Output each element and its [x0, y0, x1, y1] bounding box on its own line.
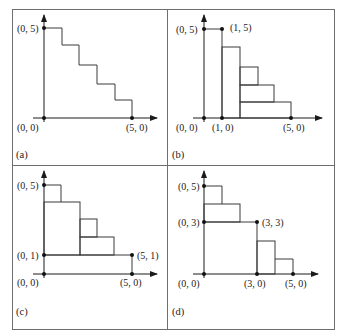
label-0-5: (0, 5)	[176, 24, 198, 36]
point-5-0	[130, 272, 134, 276]
rect-step-2	[240, 67, 258, 85]
rect-top	[44, 185, 61, 202]
label-0-3: (0, 3)	[178, 217, 200, 229]
panel-label-d: (d)	[172, 306, 185, 318]
label-1-5: (1, 5)	[230, 22, 252, 34]
panel-label-b: (b)	[172, 149, 185, 161]
rect-step-3	[240, 85, 274, 102]
label-0-0: (0, 0)	[178, 278, 200, 290]
panel-label-a: (a)	[16, 149, 28, 161]
point-0-0	[42, 272, 46, 276]
rect-top	[204, 186, 222, 204]
point-1-5	[220, 27, 224, 31]
point-0-0	[202, 272, 206, 276]
staircase-figure: (0, 5) (0, 0) (5, 0) (a) (0, 5) (1, 5) (…	[0, 0, 337, 333]
point-1-0	[220, 116, 224, 120]
rect-step-3	[80, 237, 114, 255]
label-5-0: (5, 0)	[285, 278, 307, 290]
rect-lower-1	[257, 241, 275, 274]
strip-rect	[204, 29, 222, 118]
point-0-5	[42, 26, 46, 30]
panel-label-c: (c)	[16, 306, 28, 318]
label-5-0: (5, 0)	[126, 122, 148, 134]
point-0-0	[202, 116, 206, 120]
point-0-5	[202, 27, 206, 31]
label-3-0: (3, 0)	[244, 278, 266, 290]
rect-step-4	[240, 102, 291, 118]
label-0-0: (0, 0)	[17, 277, 39, 289]
point-0-5	[202, 184, 206, 188]
panel-b: (0, 5) (1, 5) (0, 0) (1, 0) (5, 0) (b)	[172, 15, 322, 161]
point-0-1	[42, 253, 46, 257]
rect-step-2	[80, 219, 97, 237]
point-3-3	[255, 220, 259, 224]
panel-c: (0, 5) (0, 1) (5, 1) (0, 0) (5, 0) (c)	[16, 171, 159, 318]
square-3x3	[204, 222, 257, 274]
rect-col-1	[222, 47, 240, 118]
point-3-0	[255, 272, 259, 276]
panel-a: (0, 5) (0, 0) (5, 0) (a)	[16, 15, 157, 161]
point-0-3	[202, 220, 206, 224]
point-0-5	[42, 183, 46, 187]
label-1-0: (1, 0)	[212, 122, 234, 134]
point-5-0	[289, 116, 293, 120]
label-0-5: (0, 5)	[17, 180, 39, 192]
label-0-0: (0, 0)	[176, 122, 198, 134]
point-5-1	[130, 253, 134, 257]
rect-block-1	[44, 202, 80, 255]
rect-upper-2	[204, 204, 240, 222]
label-0-1: (0, 1)	[17, 250, 39, 262]
label-0-0: (0, 0)	[17, 122, 39, 134]
point-5-0	[130, 116, 134, 120]
label-3-3: (3, 3)	[262, 217, 284, 229]
label-5-0: (5, 0)	[283, 122, 305, 134]
label-5-0: (5, 0)	[120, 277, 142, 289]
rect-lower-2	[275, 259, 293, 274]
point-5-0	[291, 272, 295, 276]
strip-rect	[44, 255, 132, 274]
label-5-1: (5, 1)	[137, 250, 159, 262]
point-0-0	[42, 116, 46, 120]
staircase	[44, 28, 132, 118]
panel-d: (0, 5) (0, 3) (3, 3) (0, 0) (3, 0) (5, 0…	[172, 171, 318, 318]
label-0-5: (0, 5)	[178, 181, 200, 193]
label-0-5: (0, 5)	[17, 23, 39, 35]
